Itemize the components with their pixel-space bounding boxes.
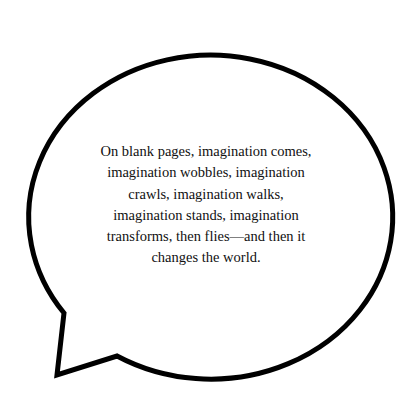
speech-bubble-text: On blank pages, imagination comes, imagi… [100, 141, 312, 269]
